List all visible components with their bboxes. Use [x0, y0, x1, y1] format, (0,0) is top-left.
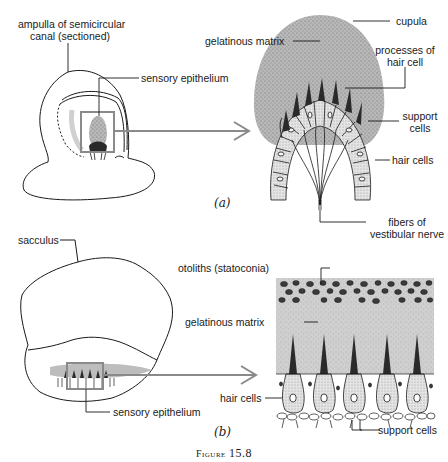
label-support-cells-b: support cells — [378, 424, 437, 436]
panel-a-label: (a) — [214, 196, 231, 210]
panel-b-label: (b) — [214, 425, 231, 439]
label-ampulla: ampulla of semicircular canal (sectioned… — [18, 18, 122, 42]
label-support-cells-a: support cells — [398, 110, 442, 134]
label-otoliths: otoliths (statoconia) — [178, 262, 269, 274]
macula-hair-cells — [282, 374, 428, 413]
label-gelatinous-matrix-a: gelatinous matrix — [205, 35, 284, 47]
label-processes-of-hair-cell: processes of hair cell — [372, 44, 438, 68]
label-sensory-epithelium-b: sensory epithelium — [113, 406, 201, 418]
label-sacculus: sacculus — [18, 234, 59, 246]
label-hair-cells-a: hair cells — [392, 154, 433, 166]
magnify-arrow-a — [114, 122, 249, 140]
label-sensory-epithelium-a: sensory epithelium — [141, 72, 229, 84]
label-gelatinous-matrix-b: gelatinous matrix — [185, 316, 264, 328]
figure-caption: Figure 15.8 — [0, 446, 448, 461]
label-cupula: cupula — [396, 15, 427, 27]
label-hair-cells-b: hair cells — [220, 392, 261, 404]
label-fibers-vestibular-nerve: fibers of vestibular nerve — [366, 216, 448, 240]
ampulla-outline — [23, 70, 154, 199]
